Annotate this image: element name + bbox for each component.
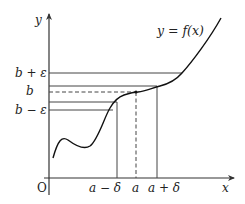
y-axis-label: y <box>34 13 42 27</box>
a-label: a <box>132 181 139 195</box>
point-a-b <box>134 90 137 93</box>
curve-label: y = f(x) <box>156 23 204 38</box>
epsilon-delta-diagram: y x O y = f(x) b + ε b b − ε a − δ a a +… <box>0 0 245 204</box>
b-plus-epsilon-label: b + ε <box>15 66 47 80</box>
a-plus-delta-label: a + δ <box>148 181 180 195</box>
origin-label: O <box>37 181 47 195</box>
x-axis-label: x <box>222 181 229 195</box>
function-curve <box>53 18 221 158</box>
b-minus-epsilon-label: b − ε <box>15 103 47 117</box>
b-label: b <box>26 84 34 98</box>
a-minus-delta-label: a − δ <box>89 181 121 195</box>
